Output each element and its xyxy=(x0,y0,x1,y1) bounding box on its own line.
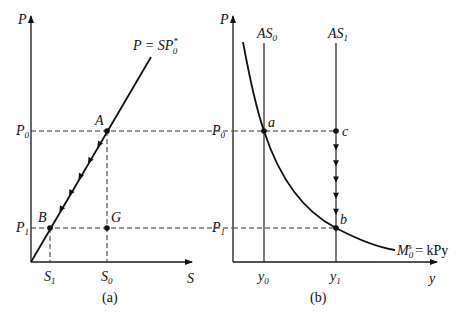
point-b xyxy=(333,225,339,231)
panel-a-s1-label: S1 xyxy=(44,269,56,286)
panel-b-x-axis-label: y xyxy=(427,271,436,286)
diagram: P S P = SP*0 A B G P0 P1 S1 S0 (a) P y xyxy=(0,0,458,312)
point-A-label: A xyxy=(94,113,104,128)
point-A xyxy=(104,128,110,134)
adjustment-arrow-icon xyxy=(333,209,339,215)
panel-b-y1-label: y1 xyxy=(328,269,341,286)
point-B xyxy=(47,225,53,231)
point-c-label: c xyxy=(342,124,349,139)
panel-a-curve-label: P = SP*0 xyxy=(132,36,178,56)
panel-b-caption: (b) xyxy=(310,290,327,306)
panel-b-p0-label: P0 xyxy=(211,123,226,140)
money-curve xyxy=(243,42,395,250)
panel-b-p1-label: P1 xyxy=(211,220,225,237)
panel-a-p1-label: P1 xyxy=(15,220,29,237)
money-curve-label: M0s = kPy xyxy=(396,241,448,260)
point-a-label: a xyxy=(268,115,275,130)
point-a xyxy=(261,128,267,134)
as1-label: AS1 xyxy=(327,26,348,43)
panel-a-p0-label: P0 xyxy=(15,123,30,140)
panel-a-x-axis-label: S xyxy=(187,271,194,286)
panel-b: P y AS0 AS1 M0s = kPy a c b P0 P1 y0 y1 … xyxy=(211,12,448,306)
panel-a-y-axis-label: P xyxy=(17,12,27,27)
point-B-label: B xyxy=(38,210,47,225)
panel-a-s0-label: S0 xyxy=(101,269,113,286)
panel-b-y-axis-label: P xyxy=(219,12,229,27)
panel-a: P S P = SP*0 A B G P0 P1 S1 S0 (a) xyxy=(15,12,232,306)
point-c xyxy=(333,128,339,134)
panel-a-caption: (a) xyxy=(102,290,118,306)
adjustment-arrow-icon xyxy=(333,144,339,150)
point-G xyxy=(104,225,110,231)
adjustment-arrow-icon xyxy=(333,177,339,183)
adjustment-arrow-icon xyxy=(333,193,339,199)
panel-b-y0-label: y0 xyxy=(256,269,269,286)
point-b-label: b xyxy=(340,212,347,227)
as0-label: AS0 xyxy=(256,26,278,43)
adjustment-arrow-icon xyxy=(333,160,339,166)
point-G-label: G xyxy=(111,210,121,225)
